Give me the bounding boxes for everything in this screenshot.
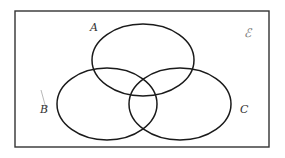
venn-diagram: A B C ℰ	[0, 0, 285, 158]
universal-set-label: ℰ	[244, 26, 253, 40]
set-a-ellipse	[92, 24, 194, 96]
set-b-ellipse	[57, 68, 157, 140]
set-c-label: C	[240, 103, 249, 116]
set-b-label: B	[39, 103, 48, 116]
set-c-ellipse	[129, 68, 231, 140]
set-a-label: A	[89, 21, 98, 34]
